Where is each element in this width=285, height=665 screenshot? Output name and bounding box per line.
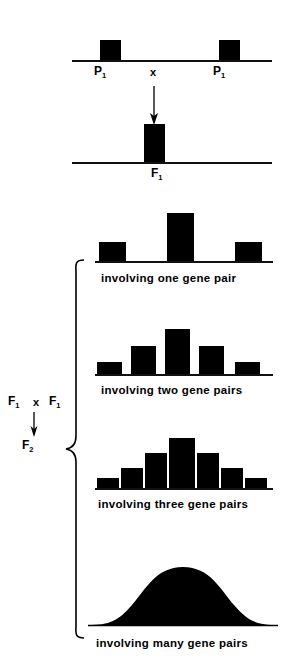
f2-grouping-brace xyxy=(62,258,88,640)
caption-two-gene-pairs: involving two gene pairs xyxy=(101,384,242,396)
f2-result-label: F2 xyxy=(22,438,34,452)
bar xyxy=(221,468,243,490)
bar xyxy=(121,468,143,490)
chart-baseline xyxy=(95,488,273,490)
parental-cross-symbol: x xyxy=(150,66,156,78)
chart-baseline xyxy=(95,261,273,263)
bar xyxy=(167,213,194,263)
bar xyxy=(169,438,195,490)
bar xyxy=(131,346,156,376)
bar xyxy=(199,346,224,376)
caption-many-gene-pairs: involving many gene pairs xyxy=(96,637,248,649)
f2-cross-right-label: F1 xyxy=(49,394,61,408)
polygenic-inheritance-figure: P1 x P1 F1 F1 x F1 F2 involving o xyxy=(0,0,285,665)
f1-generation-chart xyxy=(72,122,272,164)
f1-bar-center xyxy=(144,124,165,164)
caption-three-gene-pairs: involving three gene pairs xyxy=(98,498,248,510)
bar xyxy=(145,453,167,490)
parental-right-label: P1 xyxy=(213,64,225,78)
f2-one-gene-pair-chart xyxy=(95,205,273,263)
parental-bar-right xyxy=(219,40,240,62)
f2-two-gene-pairs-chart xyxy=(95,318,273,376)
bar xyxy=(235,242,262,263)
f2-cross-arrow xyxy=(25,412,45,438)
parental-left-label: P1 xyxy=(94,64,106,78)
parental-to-f1-arrow xyxy=(144,86,168,126)
bar xyxy=(99,242,126,263)
parental-bar-left xyxy=(100,40,121,62)
f2-three-gene-pairs-chart xyxy=(95,432,273,490)
f2-many-gene-pairs-curve xyxy=(88,545,278,630)
parental-generation-chart xyxy=(72,20,272,62)
f2-cross-symbol: x xyxy=(33,396,39,408)
f1-label: F1 xyxy=(151,166,163,180)
parental-baseline xyxy=(72,60,272,62)
chart-baseline xyxy=(95,374,273,376)
caption-one-gene-pair: involving one gene pair xyxy=(101,272,236,284)
f2-cross-left-label: F1 xyxy=(8,394,20,408)
bar xyxy=(197,453,219,490)
f1-baseline xyxy=(72,162,272,164)
bar xyxy=(165,329,190,376)
